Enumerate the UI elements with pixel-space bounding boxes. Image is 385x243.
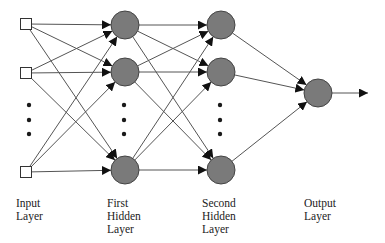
input-node — [21, 167, 32, 178]
ellipsis-dot — [122, 132, 126, 136]
hidden2-node — [207, 156, 235, 184]
ellipsis-dot — [27, 118, 31, 122]
output-layer-label: Output Layer — [304, 197, 336, 223]
ellipsis-dot — [27, 103, 31, 107]
input-node — [21, 68, 32, 79]
first-hidden-layer-label: First Hidden Layer — [107, 197, 141, 236]
ellipsis-dot — [218, 132, 222, 136]
output-node — [304, 79, 332, 107]
hidden1-node — [111, 156, 139, 184]
connection-arrow — [31, 72, 111, 73]
input-layer-label: Input Layer — [16, 197, 43, 223]
ellipsis-dot — [27, 132, 31, 136]
second-hidden-layer-label: Second Hidden Layer — [202, 197, 236, 236]
connection-arrow — [31, 170, 111, 172]
hidden1-node — [111, 11, 139, 39]
connection-arrow — [29, 37, 117, 168]
hidden1-node — [111, 58, 139, 86]
connection-arrow — [232, 102, 307, 162]
connection-arrow — [30, 82, 115, 168]
network-nodes — [21, 11, 333, 184]
connection-arrow — [31, 31, 112, 70]
ellipsis-dot — [122, 103, 126, 107]
connection-arrow — [31, 26, 112, 65]
connection-arrow — [31, 24, 111, 25]
hidden2-node — [207, 58, 235, 86]
ellipsis-dot — [218, 103, 222, 107]
ellipsis-dots — [27, 103, 222, 136]
hidden2-node — [207, 11, 235, 39]
ellipsis-dot — [218, 118, 222, 122]
connection-arrow — [235, 75, 305, 90]
ellipsis-dot — [122, 118, 126, 122]
input-node — [21, 19, 32, 30]
